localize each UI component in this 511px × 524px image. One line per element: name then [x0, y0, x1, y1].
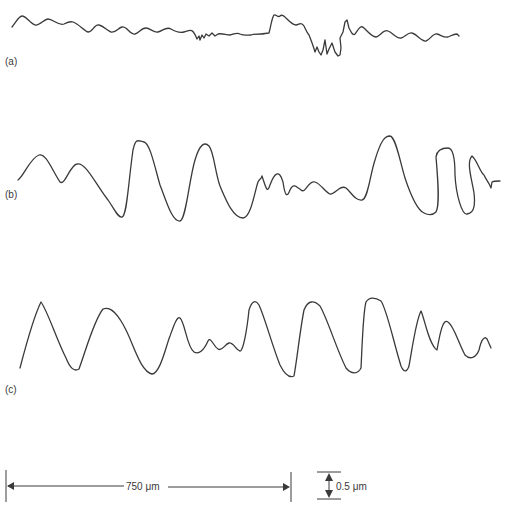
- panel-label-b: (b): [5, 189, 17, 200]
- arrow-left-icon: [7, 482, 14, 490]
- trace-b: [18, 136, 500, 221]
- horizontal-scale-label: 750 μm: [126, 481, 160, 492]
- trace-c: [20, 298, 491, 376]
- profile-figure: (a) (b) (c) 750 μm 0.5 μm: [0, 0, 511, 524]
- arrow-down-icon: [325, 490, 333, 498]
- vertical-scale-label: 0.5 μm: [336, 481, 367, 492]
- arrow-right-icon: [283, 483, 290, 491]
- panel-label-c: (c): [5, 384, 17, 395]
- panel-label-a: (a): [5, 56, 17, 67]
- arrow-up-icon: [325, 473, 333, 481]
- trace-a: [12, 15, 459, 56]
